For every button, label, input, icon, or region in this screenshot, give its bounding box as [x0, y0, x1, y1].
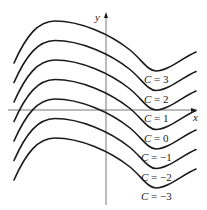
curve-label: C = 1 [144, 112, 169, 124]
curve-label: C = −3 [141, 190, 172, 202]
curve-label: C = 2 [144, 93, 169, 105]
curve-label: C = 3 [144, 73, 169, 85]
curve-label: C = −1 [141, 151, 172, 163]
solution-curves-diagram: x y C = 3C = 2C = 1C = 0C = −1C = −2C = … [0, 0, 207, 210]
y-axis-arrow-icon [104, 12, 108, 18]
curve-label: C = 0 [144, 132, 169, 144]
y-axis-label: y [94, 11, 100, 23]
curve-label: C = −2 [141, 171, 172, 183]
